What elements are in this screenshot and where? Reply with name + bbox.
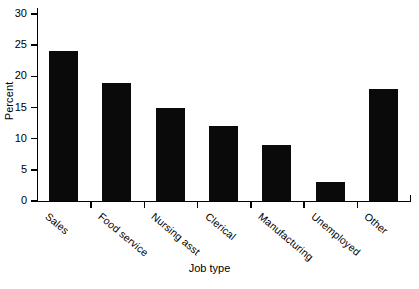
x-axis-tick [250, 202, 251, 208]
x-axis-tick [197, 202, 198, 208]
y-axis-tick-label: 15 [1, 102, 27, 113]
y-axis-tick [31, 200, 37, 201]
x-axis-tick [90, 202, 91, 208]
x-axis-label: Nursing asst [149, 210, 202, 257]
x-axis-tick [144, 202, 145, 208]
y-axis-tick-label: 20 [1, 70, 27, 81]
x-axis-label: Manufacturing [256, 210, 316, 263]
y-axis-tick [31, 44, 37, 45]
x-axis-label: Food service [96, 210, 151, 259]
bar [156, 108, 185, 202]
bar [316, 182, 345, 201]
x-axis-tick [357, 202, 358, 208]
bar [369, 89, 398, 201]
y-axis-tick-label: 25 [1, 39, 27, 50]
y-axis-tick-label: 0 [1, 195, 27, 206]
y-axis-title-text: Percent [3, 81, 15, 120]
bar [49, 51, 78, 201]
x-axis-tick [303, 202, 304, 208]
x-axis-label: Clerical [203, 210, 238, 242]
y-axis-tick [31, 138, 37, 139]
x-axis-title: Job type [0, 262, 419, 274]
y-axis-tick [31, 169, 37, 170]
x-axis-label: Other [363, 210, 391, 236]
y-axis-line [37, 8, 38, 202]
y-axis-tick-label: 5 [1, 164, 27, 175]
y-axis-tick-label: 30 [1, 8, 27, 19]
y-axis-tick [31, 76, 37, 77]
x-axis-end-tick [410, 195, 411, 202]
bar [209, 126, 238, 201]
x-axis-line [37, 201, 411, 202]
bar-chart: Percent 051015202530 SalesFood serviceNu… [0, 0, 419, 289]
x-axis-label: Unemployed [309, 210, 363, 258]
y-axis-tick [31, 107, 37, 108]
x-axis-label: Sales [43, 210, 71, 236]
bar [102, 83, 131, 201]
y-axis-tick [31, 13, 37, 14]
bar [262, 145, 291, 201]
y-axis-tick-label: 10 [1, 133, 27, 144]
